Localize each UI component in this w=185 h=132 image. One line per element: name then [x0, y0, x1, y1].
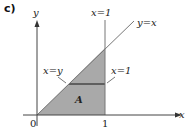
region-right-boundary-label: x=1	[111, 66, 131, 76]
panel-label: c)	[4, 3, 16, 14]
x-axis-label: x	[179, 110, 185, 120]
region-left-boundary-label: x=y	[43, 66, 63, 76]
integration-region-diagram: c) y x=1 y=x x=y x=1 A 0 1 x	[0, 0, 185, 132]
origin-label: 0	[30, 119, 36, 129]
y-axis-label: y	[33, 8, 39, 18]
leader-line-x-equals-y	[58, 77, 66, 83]
x-tick-label: 1	[102, 119, 108, 129]
y-axis-arrow-icon	[35, 20, 40, 27]
leader-line-x-equals-1	[107, 77, 115, 83]
diagram-canvas	[0, 0, 185, 132]
vertical-line-label: x=1	[91, 8, 111, 18]
region-label: A	[75, 95, 83, 105]
diagonal-line-label: y=x	[137, 18, 157, 28]
